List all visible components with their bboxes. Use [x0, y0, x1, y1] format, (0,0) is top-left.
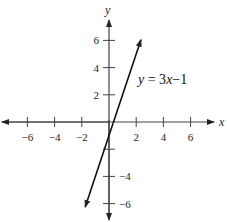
y-tick-label: −4 — [119, 170, 131, 182]
x-tick-label: 4 — [161, 131, 167, 143]
x-tick-label: −6 — [22, 131, 34, 143]
y-tick-label: 4 — [94, 62, 100, 74]
equation-end: −1 — [172, 72, 187, 87]
line-y-equals-3x-minus-1 — [113, 40, 141, 124]
equation-mid: = 3 — [144, 72, 166, 87]
y-tick-label: 6 — [94, 34, 100, 46]
y-tick-label: 2 — [94, 89, 100, 101]
y-axis-label: y — [104, 3, 111, 17]
x-tick-label: 2 — [133, 131, 139, 143]
x-tick-label: −4 — [49, 131, 61, 143]
equation-label: y = 3x−1 — [136, 72, 187, 87]
x-tick-label: 6 — [188, 131, 194, 143]
x-axis-label: x — [218, 115, 225, 129]
coordinate-plane: −6−4−2246 642−4−6 x y y = 3x−1 — [0, 0, 227, 222]
x-tick-label: −2 — [76, 131, 88, 143]
y-tick-label: −6 — [119, 198, 131, 210]
